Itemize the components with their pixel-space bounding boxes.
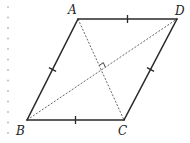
margin-dot — [7, 38, 9, 40]
margin-dot — [7, 17, 9, 19]
vertex-label-b: B — [15, 124, 25, 138]
diagonal-ac — [78, 19, 124, 120]
diagonal-bd — [27, 19, 177, 120]
diagonals — [27, 19, 177, 120]
margin-dot — [7, 101, 9, 103]
margin-dot — [7, 59, 9, 61]
margin-dot — [7, 111, 9, 113]
vertex-label-d: D — [174, 4, 185, 18]
margin-dot — [7, 132, 9, 134]
margin-dot — [7, 122, 9, 124]
margin-dot — [7, 27, 9, 29]
margin-dot-column — [7, 6, 9, 134]
margin-dot — [7, 48, 9, 50]
margin-dot — [7, 69, 9, 71]
rhombus-diagram: A D C B — [0, 0, 190, 143]
vertex-label-a: A — [67, 3, 77, 17]
right-angle-marker — [99, 63, 105, 68]
margin-dot — [7, 90, 9, 92]
margin-dot — [7, 6, 9, 8]
margin-dot — [7, 80, 9, 82]
vertex-label-c: C — [118, 124, 127, 138]
